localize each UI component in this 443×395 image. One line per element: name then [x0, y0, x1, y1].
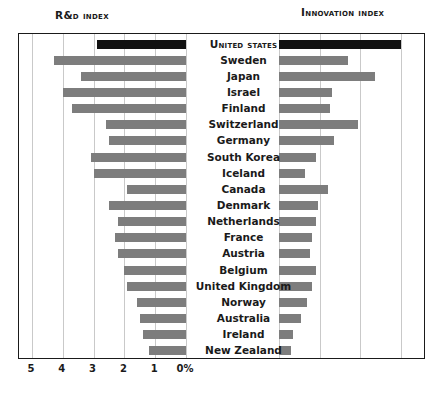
chart-row: Ireland [19, 326, 424, 343]
country-label: South Korea [178, 150, 309, 165]
chart-row: Australia [19, 310, 424, 327]
left-bar [54, 56, 186, 65]
chart-row: United States [19, 36, 424, 53]
chart-row: Germany [19, 132, 424, 149]
dual-bar-chart: R&D Index Innovation Index United States… [0, 0, 443, 395]
left-bar [91, 153, 186, 162]
left-bar [72, 104, 186, 113]
chart-row: Belgium [19, 262, 424, 279]
left-axis-tick: 0% [177, 363, 194, 374]
left-bar [124, 266, 186, 275]
right-panel-title: Innovation Index [301, 6, 384, 18]
country-label: Norway [178, 295, 309, 310]
chart-row: New Zealand [19, 342, 424, 359]
country-label: Sweden [178, 53, 309, 68]
left-bar [81, 72, 186, 81]
country-label: Finland [178, 101, 309, 116]
country-label: Ireland [178, 327, 309, 342]
country-label: Austria [178, 246, 309, 261]
chart-row: Austria [19, 245, 424, 262]
chart-row: Denmark [19, 197, 424, 214]
country-label: United States [178, 37, 309, 52]
plot-frame: United StatesSwedenJapanIsraelFinlandSwi… [18, 33, 425, 359]
chart-row: France [19, 229, 424, 246]
right-axis: 0100200300 [240, 363, 425, 379]
left-bar [118, 249, 186, 258]
left-bar [63, 88, 186, 97]
chart-row: Iceland [19, 165, 424, 182]
chart-row: Finland [19, 100, 424, 117]
country-label: Denmark [178, 198, 309, 213]
country-label: Netherlands [178, 214, 309, 229]
chart-row: Israel [19, 84, 424, 101]
left-bar [94, 169, 186, 178]
country-label: Iceland [178, 166, 309, 181]
country-label: Australia [178, 311, 309, 326]
left-panel-title: R&D Index [55, 9, 109, 21]
chart-row: Switzerland [19, 116, 424, 133]
left-bar [109, 136, 186, 145]
left-bar [106, 120, 186, 129]
chart-row: Norway [19, 294, 424, 311]
country-label: Germany [178, 133, 309, 148]
country-label: France [178, 230, 309, 245]
left-bar [97, 40, 186, 49]
chart-rows: United StatesSwedenJapanIsraelFinlandSwi… [19, 34, 424, 358]
left-axis-tick: 1 [151, 363, 158, 374]
country-label: Japan [178, 69, 309, 84]
chart-row: Sweden [19, 52, 424, 69]
country-label: Switzerland [178, 117, 309, 132]
country-label: United Kingdom [178, 279, 309, 294]
left-axis-tick: 5 [28, 363, 35, 374]
country-label: New Zealand [178, 343, 309, 358]
country-label: Israel [178, 85, 309, 100]
chart-row: Canada [19, 181, 424, 198]
chart-row: United Kingdom [19, 278, 424, 295]
left-bar [118, 217, 186, 226]
left-axis-tick: 3 [89, 363, 96, 374]
chart-row: South Korea [19, 149, 424, 166]
chart-row: Japan [19, 68, 424, 85]
country-label: Canada [178, 182, 309, 197]
country-label: Belgium [178, 263, 309, 278]
chart-row: Netherlands [19, 213, 424, 230]
left-bar [115, 233, 186, 242]
left-axis-tick: 4 [58, 363, 65, 374]
left-axis-tick: 2 [120, 363, 127, 374]
left-axis: 543210% [18, 363, 204, 379]
left-bar [109, 201, 186, 210]
